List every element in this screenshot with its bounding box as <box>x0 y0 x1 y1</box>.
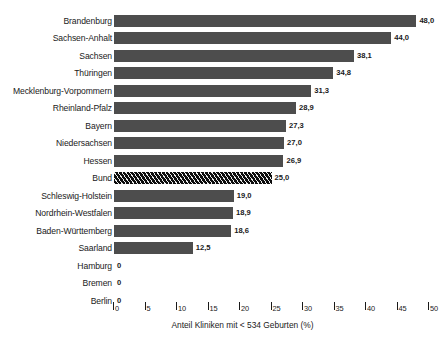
tick-label: 35 <box>336 304 344 313</box>
bar-chart: Brandenburg48,0Sachsen-Anhalt44,0Sachsen… <box>0 0 445 350</box>
bar-container: 12,5 <box>114 242 211 254</box>
category-label: Schleswig-Holstein <box>0 190 112 202</box>
bar-row: Hamburg0 <box>0 260 445 272</box>
tick-mark <box>334 302 335 310</box>
category-label: Thüringen <box>0 67 112 79</box>
tick-label: 15 <box>210 304 218 313</box>
bar-row: Bayern27,3 <box>0 120 445 132</box>
bar-container: 0 <box>114 260 121 272</box>
bar-value-label: 12,5 <box>196 242 211 254</box>
bar-row: Brandenburg48,0 <box>0 15 445 27</box>
bar-container: 26,9 <box>114 155 301 167</box>
bar <box>114 50 354 62</box>
tick-mark <box>428 302 429 310</box>
bar-value-label: 27,0 <box>287 137 302 149</box>
bar-container: 38,1 <box>114 50 372 62</box>
bar-row: Nordrhein-Westfalen18,9 <box>0 207 445 219</box>
bar-value-label: 38,1 <box>357 50 372 62</box>
tick-mark <box>176 302 177 310</box>
bar-value-label: 26,9 <box>286 155 301 167</box>
bar <box>114 15 416 27</box>
bar <box>114 207 233 219</box>
tick-mark <box>397 302 398 310</box>
bar-container: 34,8 <box>114 67 351 79</box>
bar-row: Mecklenburg-Vorpommern31,3 <box>0 85 445 97</box>
tick-label: 0 <box>115 304 119 313</box>
bar-value-label: 48,0 <box>419 15 434 27</box>
category-label: Rheinland-Pfalz <box>0 102 112 114</box>
category-label: Brandenburg <box>0 15 112 27</box>
bar-value-label: 27,3 <box>289 120 304 132</box>
bar-row: Hessen26,9 <box>0 155 445 167</box>
bar-value-label: 31,3 <box>314 85 329 97</box>
bar-row: Niedersachsen27,0 <box>0 137 445 149</box>
bar-container: 31,3 <box>114 85 329 97</box>
x-axis: 05101520253035404550 <box>0 302 445 322</box>
tick-label: 20 <box>241 304 249 313</box>
bar <box>114 137 284 149</box>
bar-container: 28,9 <box>114 102 314 114</box>
bar-highlight <box>114 172 272 184</box>
bar-value-label: 25,0 <box>275 172 290 184</box>
category-label: Hamburg <box>0 260 112 272</box>
category-label: Mecklenburg-Vorpommern <box>0 85 112 97</box>
tick-label: 30 <box>304 304 312 313</box>
bar-value-label: 18,6 <box>234 225 249 237</box>
bar <box>114 242 193 254</box>
bar-container: 18,9 <box>114 207 251 219</box>
bar-value-label: 19,0 <box>237 190 252 202</box>
bar-container: 48,0 <box>114 15 434 27</box>
bar-container: 0 <box>114 277 121 289</box>
bar-value-label: 0 <box>117 277 121 289</box>
category-label: Niedersachsen <box>0 137 112 149</box>
bar <box>114 32 391 44</box>
tick-mark <box>365 302 366 310</box>
bar-value-label: 0 <box>117 260 121 272</box>
tick-mark <box>239 302 240 310</box>
bar-container: 44,0 <box>114 32 409 44</box>
tick-mark <box>208 302 209 310</box>
tick-label: 40 <box>367 304 375 313</box>
category-label: Nordrhein-Westfalen <box>0 207 112 219</box>
category-label: Hessen <box>0 155 112 167</box>
bar <box>114 155 283 167</box>
tick-label: 10 <box>178 304 186 313</box>
bar-row: Schleswig-Holstein19,0 <box>0 190 445 202</box>
bar-container: 27,3 <box>114 120 304 132</box>
tick-mark <box>145 302 146 310</box>
bar <box>114 67 333 79</box>
bar-row: Bund25,0 <box>0 172 445 184</box>
tick-label: 50 <box>430 304 438 313</box>
tick-mark <box>302 302 303 310</box>
tick-label: 5 <box>147 304 151 313</box>
bar-container: 19,0 <box>114 190 251 202</box>
x-axis-title: Anteil Kliniken mit < 534 Geburten (%) <box>0 320 445 330</box>
tick-label: 45 <box>399 304 407 313</box>
category-label: Bayern <box>0 120 112 132</box>
bar <box>114 102 296 114</box>
bar-row: Saarland12,5 <box>0 242 445 254</box>
x-axis-title-text: Anteil Kliniken mit < 534 Geburten (%) <box>171 320 313 330</box>
tick-mark <box>271 302 272 310</box>
bar <box>114 225 231 237</box>
category-label: Baden-Württemberg <box>0 225 112 237</box>
bar-container: 18,6 <box>114 225 249 237</box>
bar-row: Rheinland-Pfalz28,9 <box>0 102 445 114</box>
bar-value-label: 18,9 <box>236 207 251 219</box>
category-label: Bremen <box>0 277 112 289</box>
bar <box>114 85 311 97</box>
bar <box>114 190 234 202</box>
category-label: Bund <box>0 172 112 184</box>
bar-value-label: 34,8 <box>336 67 351 79</box>
tick-mark <box>113 302 114 310</box>
bar-row: Thüringen34,8 <box>0 67 445 79</box>
bar-row: Sachsen-Anhalt44,0 <box>0 32 445 44</box>
tick-label: 25 <box>273 304 281 313</box>
category-label: Sachsen-Anhalt <box>0 32 112 44</box>
bar <box>114 120 286 132</box>
bar-container: 25,0 <box>114 172 289 184</box>
bar-container: 27,0 <box>114 137 302 149</box>
category-label: Sachsen <box>0 50 112 62</box>
category-label: Saarland <box>0 242 112 254</box>
bar-row: Sachsen38,1 <box>0 50 445 62</box>
